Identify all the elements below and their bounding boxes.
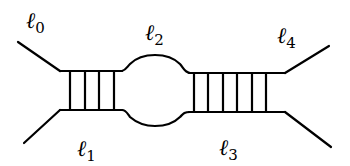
bubble-top-arc <box>122 55 190 73</box>
label-l3: ℓ3 <box>219 135 238 164</box>
label-l1: ℓ1 <box>77 136 96 165</box>
bubble-bottom-arc <box>122 110 190 126</box>
leg-top-left <box>18 42 60 71</box>
leg-bottom-right <box>285 112 331 147</box>
label-l4: ℓ4 <box>277 23 296 52</box>
leg-bottom-left <box>24 110 60 143</box>
left-ladder-rungs <box>70 71 114 110</box>
label-l2: ℓ2 <box>145 20 164 49</box>
feynman-diagram: ℓ0 ℓ1 ℓ2 ℓ3 ℓ4 <box>0 0 350 166</box>
label-l0: ℓ0 <box>26 8 45 37</box>
right-ladder-rungs <box>194 73 266 112</box>
